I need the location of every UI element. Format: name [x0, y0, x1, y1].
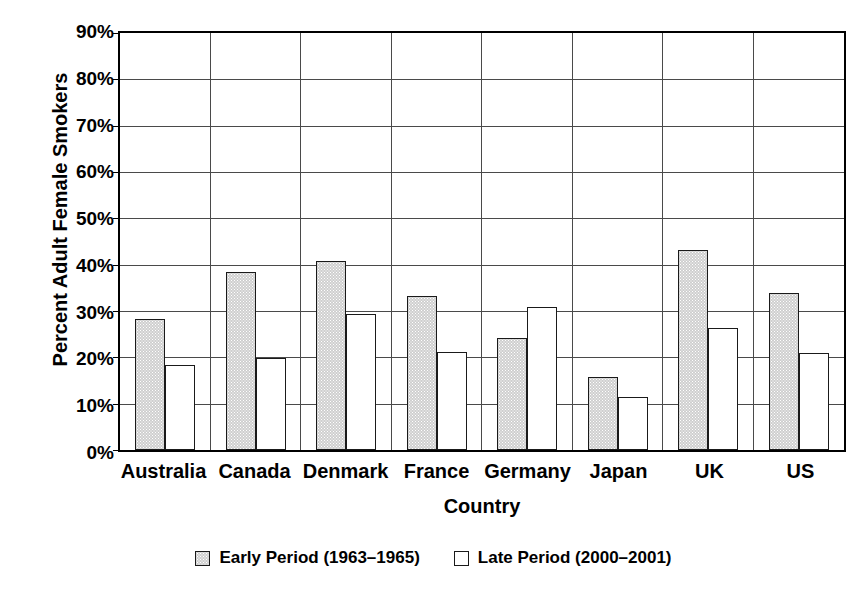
y-tick-label: 70%	[56, 115, 114, 134]
bar-pair	[392, 296, 483, 450]
bar-pair	[120, 319, 211, 450]
y-tick-label: 20%	[56, 349, 114, 368]
bar-group	[392, 33, 483, 450]
bar-late[interactable]	[618, 397, 648, 450]
legend-item[interactable]: Late Period (2000–2001)	[454, 548, 672, 568]
y-tick-label: 30%	[56, 302, 114, 321]
bar-pair	[211, 272, 302, 450]
bar-early[interactable]	[226, 272, 256, 450]
legend-item[interactable]: Early Period (1963–1965)	[195, 548, 419, 568]
x-axis-title: Country	[118, 495, 846, 518]
bar-group	[754, 33, 845, 450]
bar-groups	[120, 33, 844, 450]
y-tick-mark	[113, 357, 120, 358]
y-tick-mark	[113, 33, 120, 34]
bar-late[interactable]	[437, 352, 467, 450]
y-tick-label: 80%	[56, 68, 114, 87]
y-tick-mark	[113, 126, 120, 127]
bar-late[interactable]	[799, 353, 829, 450]
bar-early[interactable]	[769, 293, 799, 450]
bar-pair	[482, 307, 573, 450]
bar-group	[663, 33, 754, 450]
bar-early[interactable]	[588, 377, 618, 450]
bar-group	[573, 33, 664, 450]
bar-chart: Percent Adult Female Smokers 90%80%70%60…	[0, 0, 867, 594]
bar-group	[211, 33, 302, 450]
x-tick-label: Canada	[209, 456, 300, 488]
bar-pair	[663, 250, 754, 450]
bar-early[interactable]	[678, 250, 708, 450]
y-tick-mark	[113, 172, 120, 173]
x-tick-label: Denmark	[300, 456, 391, 488]
x-tick-label: Australia	[118, 456, 209, 488]
x-axis-tick-labels: AustraliaCanadaDenmarkFranceGermanyJapan…	[118, 456, 846, 488]
bar-group	[301, 33, 392, 450]
legend-swatch-icon	[195, 551, 210, 566]
x-tick-label: US	[755, 456, 846, 488]
bar-pair	[573, 377, 664, 450]
y-tick-mark	[113, 404, 120, 405]
y-tick-mark	[113, 218, 120, 219]
bar-late[interactable]	[527, 307, 557, 450]
bar-group	[120, 33, 211, 450]
bar-early[interactable]	[407, 296, 437, 450]
bar-late[interactable]	[346, 314, 376, 450]
y-tick-mark	[113, 265, 120, 266]
bar-late[interactable]	[708, 328, 738, 450]
y-tick-label: 50%	[56, 209, 114, 228]
bar-early[interactable]	[316, 261, 346, 450]
y-tick-label: 90%	[56, 22, 114, 41]
chart-legend: Early Period (1963–1965)Late Period (200…	[0, 548, 867, 568]
y-tick-label: 10%	[56, 396, 114, 415]
legend-label: Early Period (1963–1965)	[219, 548, 419, 568]
x-tick-label: France	[391, 456, 482, 488]
plot-area	[118, 31, 846, 452]
y-tick-label: 60%	[56, 162, 114, 181]
y-tick-label: 40%	[56, 255, 114, 274]
y-tick-mark	[113, 450, 120, 451]
x-tick-label: Germany	[482, 456, 573, 488]
y-tick-label: 0%	[56, 443, 114, 462]
y-axis-tick-labels: 90%80%70%60%50%40%30%20%10%0%	[56, 31, 114, 452]
y-tick-mark	[113, 79, 120, 80]
bar-early[interactable]	[135, 319, 165, 450]
x-tick-label: UK	[664, 456, 755, 488]
bar-late[interactable]	[165, 365, 195, 450]
x-tick-label: Japan	[573, 456, 664, 488]
legend-label: Late Period (2000–2001)	[478, 548, 672, 568]
bar-late[interactable]	[256, 358, 286, 450]
bar-early[interactable]	[497, 338, 527, 450]
y-tick-mark	[113, 311, 120, 312]
bar-pair	[754, 293, 845, 450]
legend-swatch-icon	[454, 551, 469, 566]
bar-group	[482, 33, 573, 450]
bar-pair	[301, 261, 392, 450]
